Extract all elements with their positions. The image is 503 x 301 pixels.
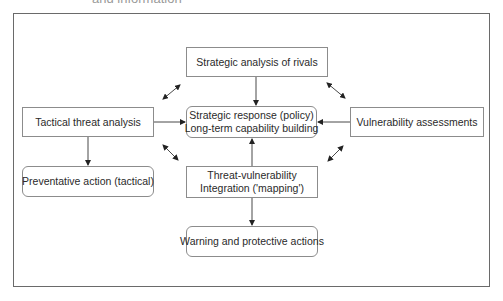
edge-tactical-to-rivals-bidirectional-arrow	[163, 85, 180, 99]
node-label-line-2: Long-term capability building	[185, 122, 319, 135]
node-threat-vulnerability-integration: Threat-vulnerability Integration ('mappi…	[186, 166, 318, 198]
node-label-line-1: Strategic response (policy)	[189, 109, 313, 122]
node-strategic-response: Strategic response (policy) Long-term ca…	[186, 106, 317, 138]
node-label: Preventative action (tactical)	[22, 175, 154, 188]
node-label: Strategic analysis of rivals	[196, 56, 317, 69]
node-label: Vulnerability assessments	[357, 116, 478, 129]
node-warning-and-protective-actions: Warning and protective actions	[186, 226, 318, 257]
node-tactical-threat-analysis: Tactical threat analysis	[22, 107, 154, 137]
node-label: Warning and protective actions	[180, 235, 324, 248]
node-preventative-action: Preventative action (tactical)	[22, 166, 154, 197]
node-label-line-2: Integration ('mapping')	[200, 182, 304, 195]
edge-vulnerability-to-mapping-bidirectional-arrow	[328, 146, 343, 161]
node-label: Tactical threat analysis	[35, 116, 141, 129]
edge-tactical-to-mapping-bidirectional-arrow	[163, 145, 178, 160]
node-strategic-analysis-of-rivals: Strategic analysis of rivals	[186, 47, 328, 77]
node-label-line-1: Threat-vulnerability	[207, 169, 296, 182]
edge-rivals-to-vulnerability-bidirectional-arrow	[327, 83, 345, 98]
node-vulnerability-assessments: Vulnerability assessments	[350, 107, 484, 137]
